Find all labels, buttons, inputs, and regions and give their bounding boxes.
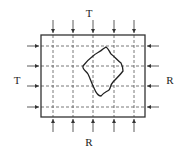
tomography-grid-diagram: T T R R <box>0 0 183 158</box>
label-left: T <box>14 74 21 86</box>
label-bottom: R <box>85 136 93 148</box>
right-arrows <box>147 46 159 107</box>
dashed-grid <box>41 35 145 117</box>
top-arrows <box>53 20 134 33</box>
left-arrows <box>27 46 39 107</box>
label-right: R <box>166 74 174 86</box>
label-top: T <box>86 7 93 19</box>
anomaly-shape <box>83 47 123 96</box>
bottom-arrows <box>53 119 134 132</box>
